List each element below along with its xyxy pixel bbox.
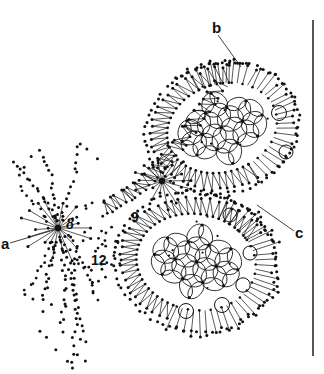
label-b: b [212,20,221,35]
figure-canvas: a b c 8 9 12 [0,0,324,374]
figure-background [0,0,324,374]
label-8: 8 [66,216,74,232]
figure-drawing [0,0,324,374]
label-12: 12 [91,253,107,267]
label-c: c [295,225,303,240]
label-9: 9 [131,210,139,224]
label-a: a [1,236,9,251]
